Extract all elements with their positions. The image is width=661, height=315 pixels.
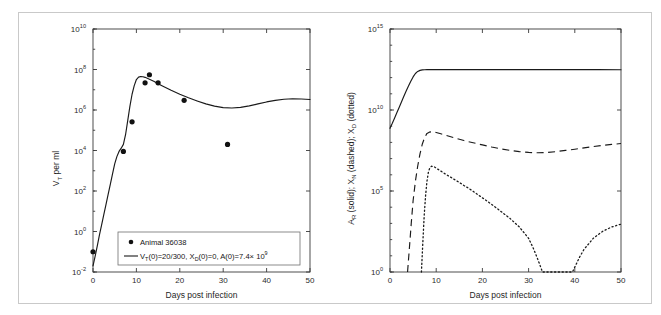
- right-xticklabel: 40: [570, 276, 579, 285]
- left-yticklabel: 102: [74, 185, 86, 196]
- right-yticklabel: 1010: [368, 104, 383, 115]
- right-curve-xd: [421, 166, 621, 272]
- right-yaxis-label: AR (solid); XN (dashed); XD (dotted): [346, 92, 357, 225]
- right-curve-ar: [390, 70, 621, 129]
- right-axes-frame: [390, 29, 621, 272]
- left-data-point: [182, 98, 187, 103]
- left-yaxis-label: VT per ml: [51, 151, 63, 186]
- left-xticklabel: 50: [306, 276, 315, 285]
- left-xticklabel: 20: [175, 276, 184, 285]
- figure-container: 0102030405010-21001021041061081010Days p…: [0, 0, 661, 315]
- left-xticklabel: 10: [132, 276, 141, 285]
- left-xaxis-label: Days post infection: [166, 290, 238, 300]
- left-data-point: [156, 80, 161, 85]
- left-xticklabel: 0: [91, 276, 96, 285]
- legend-entry-animal: Animal 36038: [140, 238, 186, 247]
- right-curve-xn: [408, 132, 621, 272]
- left-xticklabel: 30: [219, 276, 228, 285]
- left-data-point: [121, 149, 126, 154]
- left-xticklabel: 40: [262, 276, 271, 285]
- left-yticklabel: 10-2: [72, 266, 86, 277]
- left-data-point: [142, 80, 147, 85]
- left-data-point: [147, 72, 152, 77]
- right-xticklabel: 20: [478, 276, 487, 285]
- left-yticklabel: 108: [74, 64, 86, 75]
- left-data-point: [129, 119, 134, 124]
- right-yticklabel: 105: [371, 185, 383, 196]
- right-xaxis-label: Days post infection: [470, 290, 542, 300]
- left-panel-plot: 0102030405010-21001021041061081010Days p…: [0, 0, 330, 315]
- left-yticklabel: 100: [74, 226, 86, 237]
- right-panel-plot: 0102030405010010510101015Days post infec…: [330, 0, 661, 315]
- right-yticklabel: 1015: [368, 23, 383, 34]
- left-data-point: [225, 142, 230, 147]
- right-xticklabel: 30: [524, 276, 533, 285]
- left-yticklabel: 104: [74, 145, 86, 156]
- left-yticklabel: 1010: [71, 23, 86, 34]
- legend-entry-params: VT(0)=20/300, XD(0)=0, A(0)=7.4× 109: [140, 250, 268, 262]
- left-panel: 0102030405010-21001021041061081010Days p…: [0, 0, 330, 315]
- left-yticklabel: 106: [74, 104, 86, 115]
- right-xticklabel: 50: [617, 276, 626, 285]
- right-panel: 0102030405010010510101015Days post infec…: [330, 0, 661, 315]
- right-yticklabel: 100: [371, 266, 383, 277]
- right-xticklabel: 10: [432, 276, 441, 285]
- legend-marker-dot: [129, 240, 134, 245]
- left-data-point: [90, 249, 95, 254]
- right-xticklabel: 0: [388, 276, 393, 285]
